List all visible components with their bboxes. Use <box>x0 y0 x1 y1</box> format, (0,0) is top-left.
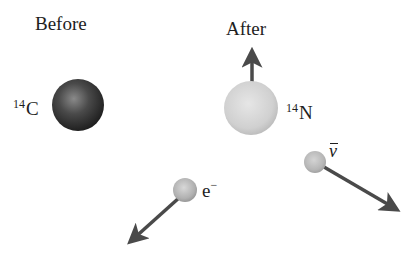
before-title: Before <box>35 14 87 33</box>
antineutrino-symbol: ν <box>329 141 337 161</box>
electron-particle <box>173 178 197 202</box>
antineutrino-bar <box>330 143 338 144</box>
nitrogen-symbol: N <box>299 102 313 123</box>
nitrogen-14-label: 14N <box>286 103 313 122</box>
antineutrino-momentum-arrow <box>324 167 396 209</box>
antineutrino-particle <box>304 151 326 173</box>
after-title: After <box>226 19 266 38</box>
electron-label: e− <box>202 181 217 200</box>
carbon-14-label: 14C <box>13 99 39 118</box>
electron-momentum-arrow <box>131 197 180 241</box>
carbon-symbol: C <box>26 98 39 119</box>
electron-charge: − <box>210 178 217 192</box>
diagram-graphics <box>0 0 414 267</box>
carbon-mass-number: 14 <box>13 97 25 111</box>
nitrogen-mass-number: 14 <box>286 101 298 115</box>
nitrogen-14-nucleus <box>224 81 278 135</box>
antineutrino-label: ν <box>329 142 337 160</box>
beta-decay-diagram: Before After 14C 14N e− ν <box>0 0 414 267</box>
carbon-14-nucleus <box>52 79 104 131</box>
